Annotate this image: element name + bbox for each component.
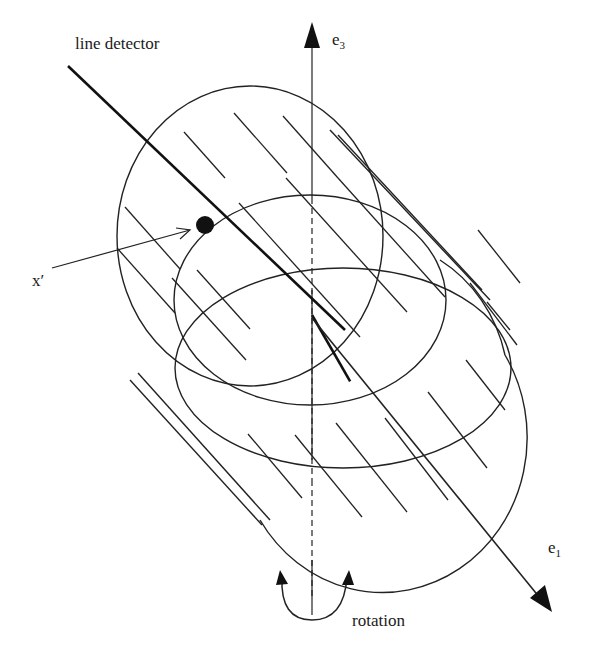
- e3-arrowhead: [304, 22, 320, 48]
- detector-center-segment: [312, 312, 350, 385]
- rotation-arrow: [276, 570, 354, 620]
- line-detector-label: line detector: [75, 34, 160, 54]
- e3-label-sub: 3: [340, 39, 346, 51]
- e3-label: e3: [332, 30, 345, 50]
- rotation-label: rotation: [352, 611, 405, 631]
- cylinder-inner-back-ellipse: [174, 195, 446, 405]
- e3-label-base: e: [332, 30, 340, 49]
- cylinder-front-outer-arc: [260, 260, 527, 592]
- x-prime-pointer: [52, 228, 190, 268]
- e1-axis: [312, 318, 552, 612]
- e1-label-base: e: [548, 538, 556, 557]
- cylinder-hatching: [117, 113, 520, 517]
- e1-label-sub: 1: [556, 547, 562, 559]
- diagram-canvas: [0, 0, 590, 648]
- x-prime-label: x′: [32, 271, 44, 291]
- point-x-prime: [196, 216, 214, 234]
- e1-label: e1: [548, 538, 561, 558]
